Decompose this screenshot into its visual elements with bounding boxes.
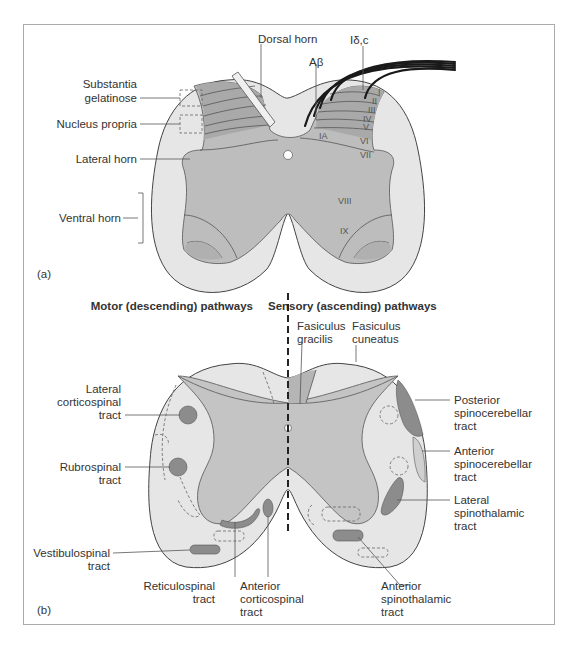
lamina-VIII: VIII xyxy=(338,196,352,206)
label-lateral-spinothalamic-3: tract xyxy=(454,520,477,532)
label-anterior-spinocerebellar-2: spinocerebellar xyxy=(454,458,532,470)
label-fasciculus-cuneatus-2: cuneatus xyxy=(352,333,399,345)
label-rubrospinal-2: tract xyxy=(99,474,122,486)
label-dorsal-horn: Dorsal horn xyxy=(258,33,317,45)
label-fiber-small: Iδ,c xyxy=(350,34,369,46)
label-lateral-corticospinal-2: corticospinal xyxy=(57,396,121,408)
label-anterior-spinocerebellar-3: tract xyxy=(454,471,477,483)
panel-b-tag: (b) xyxy=(37,604,51,616)
label-fasciculus-cuneatus-1: Fasiculus xyxy=(352,320,401,332)
spinal-cord-figure: Dorsal horn Iδ,c Aβ Substantia gelatinos… xyxy=(0,0,577,647)
anterior-corticospinal-tract-shape xyxy=(263,499,273,517)
label-lateral-corticospinal-1: Lateral xyxy=(86,383,121,395)
label-posterior-spinocerebellar-3: tract xyxy=(454,420,477,432)
label-fiber-large: Aβ xyxy=(309,56,324,68)
label-fasciculus-gracilis-2: gracilis xyxy=(297,333,333,345)
label-lateral-horn: Lateral horn xyxy=(76,153,137,165)
label-anterior-spinocerebellar-1: Anterior xyxy=(454,445,494,457)
label-vestibulospinal-1: Vestibulospinal xyxy=(33,547,110,559)
label-substantia-1: Substantia xyxy=(83,78,138,90)
label-anterior-corticospinal-1: Anterior xyxy=(240,580,280,592)
vestibulospinal-tract-shape xyxy=(190,545,220,554)
lamina-VI: VI xyxy=(360,136,369,146)
lamina-IA: IA xyxy=(319,131,328,141)
heading-motor: Motor (descending) pathways xyxy=(91,300,253,312)
lamina-IX: IX xyxy=(340,226,349,236)
label-posterior-spinocerebellar-2: spinocerebellar xyxy=(454,407,532,419)
panel-a-tag: (a) xyxy=(37,268,51,280)
lamina-V: V xyxy=(363,122,369,132)
label-reticulospinal-2: tract xyxy=(193,593,216,605)
label-anterior-corticospinal-3: tract xyxy=(240,606,263,618)
label-posterior-spinocerebellar-1: Posterior xyxy=(454,394,500,406)
label-ventral-horn: Ventral horn xyxy=(59,212,121,224)
label-lateral-spinothalamic-1: Lateral xyxy=(454,494,489,506)
rubrospinal-tract-shape xyxy=(169,458,187,476)
lamina-VII: VII xyxy=(360,150,371,160)
label-anterior-spinothalamic-2: spinothalamic xyxy=(381,593,452,605)
label-anterior-spinothalamic-3: tract xyxy=(381,606,404,618)
label-substantia-2: gelatinose xyxy=(85,92,137,104)
label-nucleus-propria: Nucleus propria xyxy=(56,118,137,130)
label-anterior-corticospinal-2: corticospinal xyxy=(240,593,304,605)
anterior-spinothalamic-tract-shape xyxy=(333,530,363,541)
label-reticulospinal-1: Reticulospinal xyxy=(143,580,215,592)
label-rubrospinal-1: Rubrospinal xyxy=(60,461,121,473)
label-anterior-spinothalamic-1: Anterior xyxy=(381,580,421,592)
label-vestibulospinal-2: tract xyxy=(88,560,111,572)
lamina-I: I xyxy=(378,87,381,97)
label-fasciculus-gracilis-1: Fasiculus xyxy=(297,320,346,332)
label-lateral-spinothalamic-2: spinothalamic xyxy=(454,507,525,519)
lateral-corticospinal-tract-shape xyxy=(179,406,197,424)
central-canal-a xyxy=(284,151,293,160)
heading-sensory: Sensory (ascending) pathways xyxy=(268,300,437,312)
label-lateral-corticospinal-3: tract xyxy=(99,409,122,421)
